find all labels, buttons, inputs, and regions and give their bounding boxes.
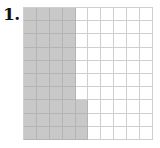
grid-cell-shaded [50,87,63,100]
grid-cell-shaded [63,8,76,21]
grid-cell [140,8,153,21]
grid-cell [88,61,101,74]
grid-cell-shaded [50,48,63,61]
grid-cell-shaded [63,21,76,34]
grid-cell-shaded [50,74,63,87]
grid-cell [127,114,140,127]
grid-cell [88,100,101,113]
grid-cell-shaded [37,87,50,100]
grid-cell-shaded [24,100,37,113]
grid-cell [76,87,89,100]
grid-cell [88,114,101,127]
grid-cell [140,21,153,34]
grid-cell-shaded [50,21,63,34]
grid-cell [76,74,89,87]
grid-cell [114,8,127,21]
grid-cell-shaded [63,100,76,113]
grid-cell [114,21,127,34]
grid-cell-shaded [37,8,50,21]
grid-cell-shaded [24,8,37,21]
grid-cell-shaded [24,48,37,61]
grid-cell-shaded [50,61,63,74]
grid-cell [76,48,89,61]
grid-cell [114,34,127,47]
grid-cell [101,114,114,127]
grid-cell [127,8,140,21]
grid-cell-shaded [63,34,76,47]
grid-cell [127,61,140,74]
grid-cell [140,87,153,100]
grid-cell-shaded [63,74,76,87]
grid-cell [127,21,140,34]
grid-cell-shaded [24,21,37,34]
grid-cell [101,74,114,87]
grid-cell [127,74,140,87]
grid-cell [114,61,127,74]
grid-cell [127,34,140,47]
grid-cell-shaded [76,114,89,127]
grid-cell [101,8,114,21]
grid-cell-shaded [63,48,76,61]
grid-cell [76,61,89,74]
grid-cell [114,127,127,140]
grid-cell-shaded [24,61,37,74]
grid-cell [114,100,127,113]
grid-cell [88,34,101,47]
grid-cell [127,127,140,140]
grid-cell [140,114,153,127]
grid-cell [101,100,114,113]
grid-cell [76,8,89,21]
grid-cell-shaded [37,34,50,47]
grid-cell-shaded [76,127,89,140]
grid-cell-shaded [63,87,76,100]
grid-cell-shaded [24,127,37,140]
grid-cell [88,8,101,21]
grid-cell [114,87,127,100]
grid-cell [88,127,101,140]
grid-cell [140,61,153,74]
grid-cell-shaded [50,8,63,21]
grid-cell [76,21,89,34]
grid-cell [101,34,114,47]
grid-cell-shaded [24,87,37,100]
grid-cell-shaded [37,48,50,61]
grid-cell [101,21,114,34]
grid-cell-shaded [63,114,76,127]
grid-cell [140,127,153,140]
grid-cell [114,114,127,127]
grid-cell [101,127,114,140]
grid-cell [140,74,153,87]
grid-cell [101,87,114,100]
grid-cell-shaded [50,34,63,47]
hundred-grid [23,7,153,140]
grid-cell-shaded [50,127,63,140]
grid-cell [127,87,140,100]
grid-cell [88,21,101,34]
grid-cell [101,61,114,74]
grid-cell-shaded [37,74,50,87]
grid-cell [76,34,89,47]
grid-cell [127,100,140,113]
grid-cell-shaded [76,100,89,113]
grid-cell-shaded [37,100,50,113]
grid-cell [140,100,153,113]
problem-number: 1. [3,4,20,24]
grid-cell-shaded [37,21,50,34]
grid-cell-shaded [37,114,50,127]
grid-cell-shaded [63,61,76,74]
grid-cell [88,87,101,100]
grid-cell [88,48,101,61]
grid-cell-shaded [24,74,37,87]
grid-cell [127,48,140,61]
grid-cell [101,48,114,61]
grid-cell [140,34,153,47]
grid-cell-shaded [24,34,37,47]
grid-cell-shaded [24,114,37,127]
grid-cell-shaded [63,127,76,140]
grid-cell-shaded [50,114,63,127]
grid-cell-shaded [50,100,63,113]
grid-cell [114,74,127,87]
grid-cell [88,74,101,87]
grid-cell-shaded [37,127,50,140]
grid-cell-shaded [37,61,50,74]
